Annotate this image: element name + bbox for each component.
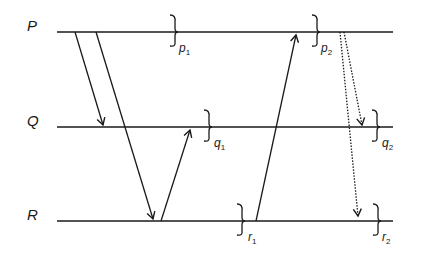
cut-label-r1: r1 [248,230,257,246]
process-label-q: Q [27,112,39,129]
cut-bracket-p1 [170,15,178,46]
message-p-to-q [75,32,103,125]
message-r-to-q [161,130,190,221]
cut-label-p2: p2 [320,41,333,57]
cut-bracket-p2 [312,15,320,46]
message-p-to-r [96,32,153,219]
cut-bracket-q1 [204,110,212,141]
cut-bracket-r1 [237,204,245,235]
process-label-p: P [27,17,37,34]
space-time-diagram: P Q R p1 p2 q1 q2 r1 r2 [0,0,421,268]
process-label-r: R [27,206,38,223]
cut-label-p1: p1 [178,41,191,57]
message-r-to-p [256,35,296,221]
cut-label-r2: r2 [382,230,391,246]
cut-bracket-q2 [372,110,380,141]
cut-label-q1: q1 [214,136,226,152]
cut-label-q2: q2 [382,136,394,152]
message-p-to-q-dotted [344,32,362,125]
cut-bracket-r2 [373,204,381,235]
